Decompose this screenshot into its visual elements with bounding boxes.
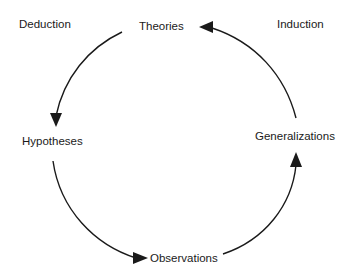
node-generalizations: Generalizations [255,131,335,143]
node-hypotheses: Hypotheses [22,136,83,148]
node-theories: Theories [139,21,184,33]
node-observations: Observations [150,253,218,265]
arrow-observations-to-generalizations [223,165,296,254]
deduction-label: Deduction [19,19,71,31]
arrowhead-down-icon [50,113,62,127]
induction-label: Induction [277,19,324,31]
arrow-theories-to-hypotheses [56,32,122,116]
arrow-generalizations-to-theories [212,28,296,118]
arrowhead-right-icon [133,252,148,264]
arrowhead-left-icon [199,21,213,33]
arrowhead-up-icon [290,152,302,167]
arrow-hypotheses-to-observations [53,161,136,258]
